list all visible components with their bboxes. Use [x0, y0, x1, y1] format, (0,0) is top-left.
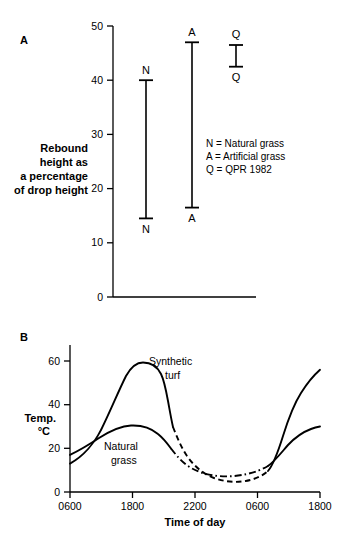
panel-b: B 0 20 40 60 Temp. °C 0600 1800 2 [20, 331, 332, 528]
curve-label-synthetic-turf-line-2: turf [165, 369, 180, 381]
panel-b-ytick-20: 20 [48, 442, 60, 454]
panel-a-legend: N = Natural grass A = Artificial grass Q… [206, 138, 285, 175]
panel-a-ytick-30: 30 [91, 128, 103, 140]
curve-label-natural-grass-line-2: grass [111, 454, 137, 466]
panel-b-x-ticks [70, 492, 320, 498]
panel-a-ytick-20: 20 [91, 182, 103, 194]
panel-a-axis-title-line-1: Rebound [40, 142, 88, 154]
panel-b-xtick-4: 0600 [246, 500, 270, 512]
range-bar-qpr-1982-label-bottom: Q [232, 71, 241, 83]
panel-b-ytick-0: 0 [54, 486, 60, 498]
curve-label-natural-grass-line-1: Natural [104, 440, 138, 452]
panel-b-xtick-1: 0600 [58, 500, 82, 512]
panel-b-y-axis-title-line-2: °C [38, 425, 50, 437]
range-bar-qpr-1982: Q Q [229, 28, 243, 83]
panel-a-ytick-40: 40 [91, 74, 103, 86]
panel-b-letter: B [20, 331, 28, 343]
panel-a-legend-item-n: N = Natural grass [206, 138, 284, 149]
range-bar-natural-grass-label-bottom: N [142, 223, 150, 235]
panel-a-ytick-50: 50 [91, 20, 103, 32]
panel-b-y-ticks [64, 361, 70, 492]
panel-a-axis-title-line-2: height as [40, 156, 88, 168]
panel-b-xtick-5: 1800 [308, 500, 332, 512]
curve-synthetic-turf-night [173, 427, 268, 482]
panel-a: A 0 10 20 30 40 50 Rebound height as a p… [14, 20, 285, 303]
panel-b-ytick-60: 60 [48, 355, 60, 367]
range-bar-artificial-grass-label-top: A [188, 26, 196, 38]
range-bar-artificial-grass: A A [185, 26, 199, 224]
panel-a-ytick-0: 0 [97, 291, 103, 303]
panel-b-xtick-2: 1800 [121, 500, 145, 512]
range-bar-natural-grass: N N [139, 64, 153, 235]
panel-b-y-axis-title-line-1: Temp. [24, 412, 56, 424]
panel-b-y-axis-title: Temp. °C [24, 412, 56, 437]
figure-root: A 0 10 20 30 40 50 Rebound height as a p… [0, 0, 341, 546]
panel-a-axis-title-line-3: a percentage [20, 170, 88, 182]
range-bar-natural-grass-label-top: N [142, 64, 150, 76]
panel-a-legend-item-a: A = Artificial grass [206, 151, 285, 162]
curve-label-synthetic-turf-line-1: Synthetic [149, 355, 192, 367]
panel-a-letter: A [20, 34, 28, 46]
panel-b-xtick-3: 2200 [183, 500, 207, 512]
panel-b-x-axis-title: Time of day [165, 516, 227, 528]
curve-natural-grass-morning [268, 427, 320, 467]
curve-synthetic-turf-morning [268, 370, 320, 471]
panel-a-axis-title: Rebound height as a percentage of drop h… [14, 142, 88, 196]
panel-a-axis-title-line-4: of drop height [14, 184, 88, 196]
panel-a-ticks [107, 26, 113, 297]
curve-label-natural-grass: Natural grass [104, 440, 138, 466]
panel-a-legend-item-q: Q = QPR 1982 [206, 164, 272, 175]
panel-b-ytick-40: 40 [48, 398, 60, 410]
range-bar-qpr-1982-label-top: Q [232, 28, 241, 40]
range-bar-artificial-grass-label-bottom: A [188, 212, 196, 224]
panel-a-ytick-10: 10 [91, 236, 103, 248]
